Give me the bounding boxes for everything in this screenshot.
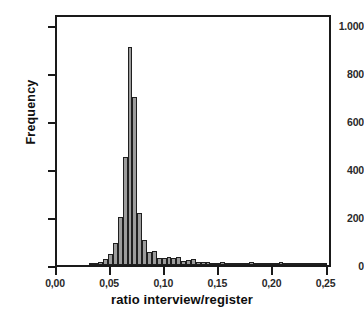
x-axis-tick-label: 0,00 bbox=[33, 277, 77, 289]
y-axis-tick-mark bbox=[48, 122, 55, 124]
x-axis-tick-mark bbox=[55, 267, 57, 275]
x-axis-tick-label: 0,20 bbox=[249, 277, 293, 289]
y-axis-tick-mark bbox=[48, 170, 55, 172]
plot-area bbox=[55, 15, 331, 267]
x-axis-tick-label: 0,05 bbox=[87, 277, 131, 289]
x-axis-title: ratio interview/register bbox=[0, 292, 364, 307]
x-axis-tick-label: 0,25 bbox=[304, 277, 348, 289]
cropped-caption-text bbox=[60, 0, 340, 5]
x-axis-tick-label: 0,15 bbox=[195, 277, 239, 289]
y-axis-tick-mark bbox=[48, 218, 55, 220]
histogram-bar bbox=[322, 263, 327, 265]
x-axis-tick-label: 0,10 bbox=[141, 277, 185, 289]
y-axis-tick-mark bbox=[48, 26, 55, 28]
y-axis-tick-mark bbox=[48, 74, 55, 76]
x-axis-tick-mark bbox=[326, 267, 328, 275]
x-axis-tick-mark bbox=[217, 267, 219, 275]
x-axis-tick-mark bbox=[271, 267, 273, 275]
x-axis-tick-mark bbox=[109, 267, 111, 275]
histogram-bars bbox=[57, 17, 329, 265]
y-axis-title: Frequency bbox=[24, 57, 38, 167]
histogram-figure: Frequency 02004006008001.000 0,000,050,1… bbox=[0, 0, 364, 311]
x-axis-tick-mark bbox=[163, 267, 165, 275]
y-axis-tick-mark bbox=[48, 266, 55, 268]
